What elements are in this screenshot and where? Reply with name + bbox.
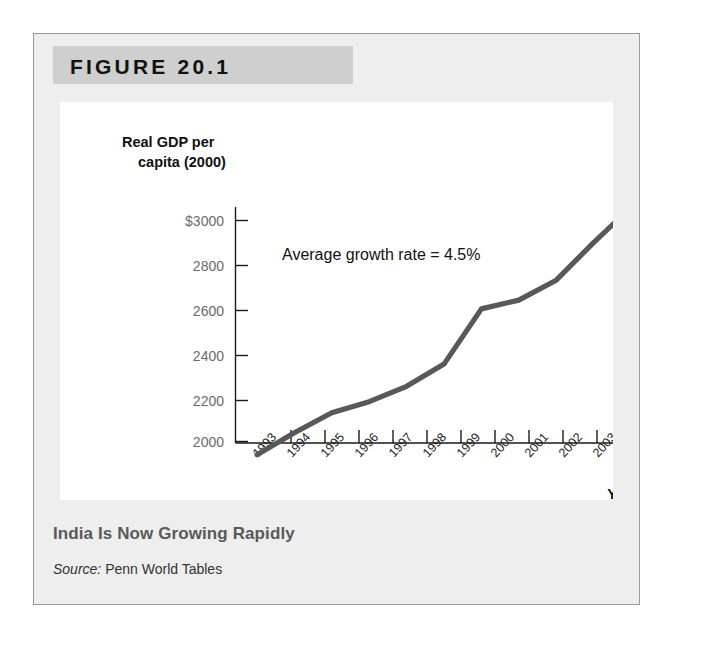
x-tick-label: 2001 <box>522 430 551 460</box>
x-tick-label: 1995 <box>318 430 347 460</box>
y-tick-label: 2600 <box>193 303 224 319</box>
y-tick-label: $3000 <box>185 213 224 229</box>
y-axis-title-line1: Real GDP per <box>122 134 215 150</box>
y-tick-label: 2200 <box>193 393 224 409</box>
y-tick-label: 2000 <box>193 434 224 450</box>
figure-number-label: FIGURE 20.1 <box>70 55 231 79</box>
figure-caption-title: India Is Now Growing Rapidly <box>53 524 295 544</box>
source-value: Penn World Tables <box>101 561 222 577</box>
x-tick-label: 1997 <box>386 430 415 460</box>
figure-source-note: Source: Penn World Tables <box>53 561 222 577</box>
x-tick-label: 1996 <box>352 430 381 460</box>
x-tick-label: 2000 <box>488 430 517 460</box>
source-label: Source: <box>53 561 101 577</box>
x-tick-label: 1998 <box>420 430 449 460</box>
chart-panel: Real GDP per capita (2000) $3000 2800 26… <box>60 102 613 500</box>
x-axis-title: Year <box>607 486 613 500</box>
figure-header-band: FIGURE 20.1 <box>53 46 353 84</box>
y-axis-title-line2: capita (2000) <box>138 154 226 170</box>
line-chart: Real GDP per capita (2000) $3000 2800 26… <box>60 102 613 500</box>
figure-container: FIGURE 20.1 Real GDP per capita (2000) $… <box>33 33 640 605</box>
y-tick-label: 2400 <box>193 348 224 364</box>
x-tick-label: 2002 <box>556 430 585 460</box>
growth-rate-annotation: Average growth rate = 4.5% <box>282 246 481 263</box>
gdp-series-line <box>257 207 613 455</box>
x-tick-label: 2003 <box>590 430 613 460</box>
y-tick-label: 2800 <box>193 258 224 274</box>
x-tick-label: 1999 <box>454 430 483 460</box>
